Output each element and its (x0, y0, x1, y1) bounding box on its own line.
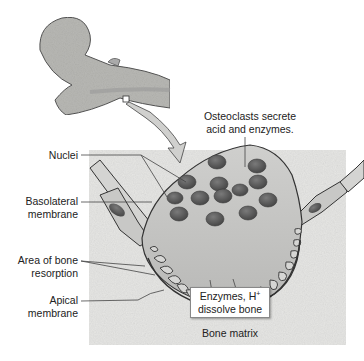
callout-line-1: Osteoclasts secrete (198, 110, 302, 123)
bone-matrix-text: Bone matrix (202, 327, 258, 339)
basolateral-line-2: membrane (10, 208, 78, 221)
basolateral-membrane-label: Basolateral membrane (10, 195, 78, 220)
apical-line-2: membrane (10, 307, 78, 320)
callout-line-2: acid and enzymes. (198, 123, 302, 136)
apical-line-1: Apical (10, 294, 78, 307)
magnified-region-marker (123, 96, 129, 102)
resorption-line-1: Area of bone (2, 254, 78, 267)
femur-illustration (40, 17, 186, 163)
box-line-2: dissolve bone (195, 303, 265, 316)
bone-resorption-label: Area of bone resorption (2, 254, 78, 279)
resorption-line-2: resorption (2, 267, 78, 280)
enzymes-dissolve-bone-box: Enzymes, H+ dissolve bone (190, 287, 270, 318)
nuclei-text: Nuclei (49, 149, 78, 161)
box-superscript: + (256, 290, 260, 297)
basolateral-line-1: Basolateral (10, 195, 78, 208)
osteoclast-secretion-label: Osteoclasts secrete acid and enzymes. (198, 110, 302, 135)
nuclei-label: Nuclei (10, 149, 78, 162)
apical-membrane-label: Apical membrane (10, 294, 78, 319)
bone-matrix-label: Bone matrix (190, 327, 270, 340)
box-line-1: Enzymes, H (200, 290, 257, 302)
